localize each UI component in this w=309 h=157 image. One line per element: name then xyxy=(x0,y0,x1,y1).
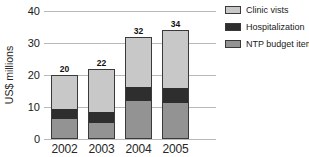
bar-total-label-2002: 20 xyxy=(46,64,83,74)
bar-2003 xyxy=(88,69,115,139)
bar-segment-clinic-vists xyxy=(126,38,151,87)
legend-label-hospitalization: Hospitalization xyxy=(246,22,305,32)
y-tick-label-10: 10 xyxy=(14,101,40,113)
y-tick-label-20: 20 xyxy=(14,69,40,81)
bar-segment-ntp-budget-items xyxy=(89,123,114,138)
bar-2002 xyxy=(51,75,78,139)
bar-total-label-2003: 22 xyxy=(83,58,120,68)
bar-segment-hospitalization xyxy=(126,87,151,101)
bar-segment-ntp-budget-items xyxy=(126,101,151,138)
bar-segment-hospitalization xyxy=(89,112,114,123)
bar-total-label-2004: 32 xyxy=(120,26,157,36)
bar-2005 xyxy=(162,30,189,139)
legend-item-hospitalization: Hospitalization xyxy=(225,22,309,32)
legend: Clinic vistsHospitalizationNTP budget it… xyxy=(225,5,309,49)
x-tick-label-2002: 2002 xyxy=(44,142,85,156)
legend-swatch-clinic-vists xyxy=(225,6,241,14)
bar-total-label-2005: 34 xyxy=(157,19,194,29)
bar-segment-hospitalization xyxy=(52,109,77,118)
bar-segment-hospitalization xyxy=(163,88,188,103)
x-tick-label-2004: 2004 xyxy=(118,142,159,156)
legend-swatch-ntp-budget-items xyxy=(225,40,241,48)
bar-segment-ntp-budget-items xyxy=(52,119,77,138)
bar-segment-clinic-vists xyxy=(52,76,77,109)
gridline-40 xyxy=(44,11,216,12)
legend-item-ntp-budget-items: NTP budget items xyxy=(225,39,309,49)
y-tick-label-0: 0 xyxy=(14,133,40,145)
bar-segment-ntp-budget-items xyxy=(163,103,188,138)
bar-segment-clinic-vists xyxy=(163,31,188,88)
y-tick-label-40: 40 xyxy=(14,5,40,17)
legend-label-ntp-budget-items: NTP budget items xyxy=(246,39,309,49)
legend-item-clinic-vists: Clinic vists xyxy=(225,5,309,15)
bar-segment-clinic-vists xyxy=(89,70,114,112)
bar-2004 xyxy=(125,37,152,139)
stacked-bar-chart: US$ millions 010203040202002222003322004… xyxy=(0,0,309,157)
x-tick-label-2005: 2005 xyxy=(155,142,196,156)
x-tick-label-2003: 2003 xyxy=(81,142,122,156)
legend-swatch-hospitalization xyxy=(225,23,241,31)
legend-label-clinic-vists: Clinic vists xyxy=(246,5,289,15)
y-tick-label-30: 30 xyxy=(14,37,40,49)
